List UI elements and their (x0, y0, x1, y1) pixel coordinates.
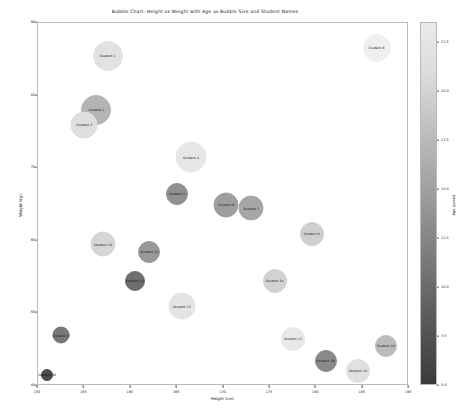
x-tick-mark (129, 385, 130, 388)
bubble-label: Student 14 (265, 279, 283, 283)
bubble-point[interactable]: Student 10 (90, 232, 115, 257)
bubble-point[interactable]: Student 11 (138, 241, 160, 263)
colorbar-tick-mark (437, 90, 439, 91)
x-tick-mark (361, 385, 362, 388)
y-tick-label: 60 (25, 238, 35, 242)
bubble-label: Student 3 (76, 123, 92, 127)
bubble-point[interactable]: Student 16 (41, 369, 53, 381)
x-tick-label: 165 (173, 390, 179, 394)
bubble-point[interactable]: Student 17 (281, 327, 305, 351)
colorbar-tick-label: 17.5 (441, 138, 449, 142)
colorbar-tick-label: 12.5 (441, 236, 449, 240)
bubble-point[interactable]: Student 3 (71, 111, 98, 138)
x-tick-label: 185 (358, 390, 364, 394)
bubble-label: Student 8 (369, 46, 385, 50)
bubble-label: Student 1 (100, 54, 116, 58)
chart-title: Bubble Chart: Height vs Weight with Age … (0, 9, 410, 14)
bubble-label: Student 13 (173, 304, 191, 308)
bubble-point[interactable]: Student 15 (53, 327, 70, 344)
x-tick-label: 150 (34, 390, 40, 394)
bubble-label: Student 11 (140, 250, 158, 254)
x-axis-label: Height (cm) (37, 396, 408, 401)
bubble-label: Student 6 (218, 203, 234, 207)
bubble-label: Student 9 (304, 232, 320, 236)
colorbar-tick-label: 7.5 (441, 334, 446, 338)
x-tick-mark (315, 385, 316, 388)
y-tick-label: 90 (25, 20, 35, 24)
colorbar-tick-label: 22.5 (441, 40, 449, 44)
colorbar-tick-mark (437, 237, 439, 238)
bubble-point[interactable]: Student 1 (93, 41, 123, 71)
colorbar-gradient (420, 22, 437, 385)
x-tick-label: 175 (266, 390, 272, 394)
bubble-label: Student 12 (126, 279, 144, 283)
bubble-point[interactable]: Student 19 (346, 359, 370, 383)
colorbar-tick-mark (437, 287, 439, 288)
bubble-point[interactable]: Student 8 (363, 34, 391, 62)
colorbar-tick-mark (437, 41, 439, 42)
bubble-label: Student 17 (284, 337, 302, 341)
bubble-label: Student 15 (52, 333, 70, 337)
bubble-point[interactable]: Student 5 (166, 183, 188, 205)
bubble-point[interactable]: Student 20 (375, 335, 397, 357)
bubble-point[interactable]: Student 7 (239, 196, 264, 221)
x-tick-label: 190 (405, 390, 411, 394)
bubble-label: Student 16 (38, 373, 56, 377)
x-tick-mark (222, 385, 223, 388)
bubble-label: Student 10 (94, 242, 112, 246)
x-tick-mark (268, 385, 269, 388)
y-tick-label: 80 (25, 93, 35, 97)
bubble-label: Student 5 (169, 192, 185, 196)
bubble-point[interactable]: Student 9 (300, 222, 324, 246)
x-tick-mark (408, 385, 409, 388)
x-tick-mark (176, 385, 177, 388)
colorbar-tick-label: 5.0 (441, 383, 446, 387)
bubble-point[interactable]: Student 6 (214, 192, 239, 217)
y-tick-label: 70 (25, 165, 35, 169)
colorbar-tick-mark (437, 139, 439, 140)
bubble-label: Student 7 (243, 206, 259, 210)
x-tick-label: 170 (219, 390, 225, 394)
bubble-chart-figure: Bubble Chart: Height vs Weight with Age … (0, 0, 471, 418)
bubble-label: Student 19 (349, 369, 367, 373)
y-axis-label: Weight (kg) (18, 176, 23, 236)
bubble-label: Student 2 (88, 108, 104, 112)
bubble-point[interactable]: Student 14 (263, 269, 287, 293)
x-tick-mark (83, 385, 84, 388)
bubble-point[interactable]: Student 18 (315, 350, 337, 372)
colorbar-tick-label: 15.0 (441, 187, 449, 191)
y-tick-label: 50 (25, 310, 35, 314)
bubble-point[interactable]: Student 12 (125, 271, 145, 291)
colorbar-label: Age (years) (452, 175, 456, 235)
plot-area: Student 1Student 2Student 3Student 4Stud… (37, 22, 408, 385)
colorbar-tick-label: 10.0 (441, 285, 449, 289)
bubble-label: Student 20 (377, 344, 395, 348)
colorbar-tick-label: 20.0 (441, 89, 449, 93)
bubble-point[interactable]: Student 13 (168, 293, 195, 320)
x-tick-label: 160 (127, 390, 133, 394)
colorbar-tick-mark (437, 385, 439, 386)
bubble-point[interactable]: Student 4 (176, 142, 207, 173)
bubble-label: Student 18 (316, 359, 334, 363)
x-tick-label: 155 (80, 390, 86, 394)
bubble-label: Student 4 (183, 155, 199, 159)
colorbar-tick-mark (437, 188, 439, 189)
y-tick-label: 40 (25, 383, 35, 387)
colorbar-tick-mark (437, 336, 439, 337)
x-tick-label: 180 (312, 390, 318, 394)
